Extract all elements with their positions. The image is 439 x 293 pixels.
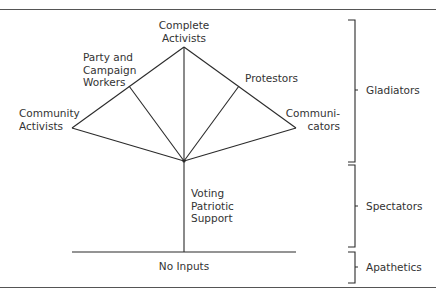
node-text: Workers	[83, 76, 136, 89]
node-text: Activists	[19, 120, 80, 133]
diagram-canvas	[0, 0, 439, 293]
node-text: Party and	[83, 51, 136, 64]
node-text: Patriotic	[191, 200, 234, 213]
node-text: Campaign	[83, 64, 136, 77]
hub-dot	[182, 159, 185, 162]
bracket-gladiators	[348, 20, 358, 162]
node-text: Complete	[152, 19, 216, 32]
node-party-campaign-workers: Party and Campaign Workers	[83, 51, 136, 89]
group-label-apathetics: Apathetics	[366, 261, 422, 274]
node-complete-activists: Complete Activists	[152, 19, 216, 44]
node-communicators: Communi- cators	[282, 107, 340, 132]
node-text: Voting	[191, 187, 234, 200]
group-label-gladiators: Gladiators	[366, 84, 420, 97]
node-community-activists: Community Activists	[19, 107, 80, 132]
edge-right-lower	[184, 128, 296, 161]
bottom-rule	[0, 287, 436, 288]
spoke-protestors	[184, 86, 239, 161]
group-label-spectators: Spectators	[366, 200, 422, 213]
bracket-apathetics	[348, 252, 358, 283]
node-text: Community	[19, 107, 80, 120]
node-text: No Inputs	[144, 260, 224, 273]
node-voting-patriotic-support: Voting Patriotic Support	[191, 187, 234, 225]
node-text: Protestors	[245, 72, 298, 85]
edge-left-lower	[72, 128, 184, 161]
node-protestors: Protestors	[245, 72, 298, 85]
bracket-spectators	[348, 165, 358, 247]
spoke-party	[129, 86, 184, 161]
node-text: Activists	[152, 32, 216, 45]
node-text: Support	[191, 212, 234, 225]
edge-right-upper	[184, 47, 296, 128]
node-no-inputs: No Inputs	[144, 260, 224, 273]
node-text: Communi-	[282, 107, 340, 120]
node-text: cators	[282, 120, 340, 133]
